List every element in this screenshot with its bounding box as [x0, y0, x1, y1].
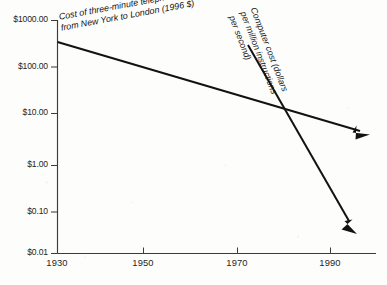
- y-tick-label-0-10: $0.10: [0, 206, 48, 216]
- y-tick-label-1000: $1000.00: [0, 14, 48, 24]
- y-tick-label-10: $10.00: [0, 107, 48, 117]
- y-tick-label-100: $100.00: [0, 61, 48, 71]
- series-line-telephone-cost: [58, 42, 361, 131]
- y-tick-label-0-01: $0.01: [0, 247, 48, 257]
- series-arrow-computer-cost: [342, 220, 358, 235]
- y-tick-label-1: $1.00: [0, 159, 48, 169]
- x-tick-label-1930: 1930: [33, 257, 81, 268]
- x-tick-label-1970: 1970: [213, 257, 261, 268]
- x-tick-label-1950: 1950: [119, 257, 167, 268]
- series-arrow-telephone-cost: [353, 126, 371, 140]
- chart-figure: $1000.00 $100.00 $10.00 $1.00 $0.10 $0.0…: [0, 0, 387, 285]
- chart-plot-area: [0, 0, 387, 285]
- x-tick-label-1990: 1990: [306, 257, 354, 268]
